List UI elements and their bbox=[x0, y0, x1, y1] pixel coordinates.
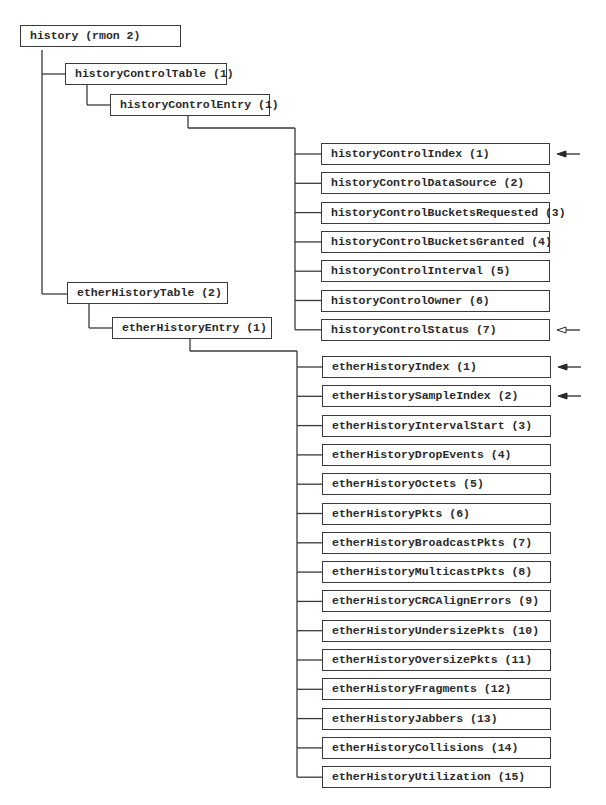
node-ether-history-table: etherHistoryTable (2) bbox=[67, 282, 228, 304]
ether-history-column-node: etherHistoryCRCAlignErrors (9) bbox=[322, 590, 551, 612]
ether-history-column-node: etherHistoryUtilization (15) bbox=[322, 766, 551, 788]
ether-history-column-node: etherHistoryUndersizePkts (10) bbox=[322, 620, 551, 642]
node-history-control-entry: historyControlEntry (1) bbox=[110, 94, 270, 116]
filled-arrow-icon bbox=[556, 149, 580, 159]
ether-history-column-node: etherHistoryDropEvents (4) bbox=[322, 444, 551, 466]
history-control-column-node: historyControlBucketsRequested (3) bbox=[321, 202, 550, 224]
history-control-column-node: historyControlBucketsGranted (4) bbox=[321, 231, 550, 253]
ether-history-column-node: etherHistoryCollisions (14) bbox=[322, 737, 551, 759]
history-control-column-node: historyControlIndex (1) bbox=[321, 143, 550, 165]
ether-history-column-node: etherHistorySampleIndex (2) bbox=[322, 385, 551, 407]
ether-history-column-node: etherHistoryBroadcastPkts (7) bbox=[322, 532, 551, 554]
history-control-column-node: historyControlInterval (5) bbox=[321, 260, 550, 282]
ether-history-column-node: etherHistoryIntervalStart (3) bbox=[322, 415, 551, 437]
hollow-arrow-icon bbox=[556, 325, 580, 335]
ether-history-column-node: etherHistoryOctets (5) bbox=[322, 473, 551, 495]
history-control-column-node: historyControlOwner (6) bbox=[321, 290, 550, 312]
history-control-column-node: historyControlDataSource (2) bbox=[321, 172, 550, 194]
ether-history-column-node: etherHistoryMulticastPkts (8) bbox=[322, 561, 551, 583]
ether-history-column-node: etherHistoryOversizePkts (11) bbox=[322, 649, 551, 671]
ether-history-column-node: etherHistoryIndex (1) bbox=[322, 356, 551, 378]
history-control-column-node: historyControlStatus (7) bbox=[321, 319, 550, 341]
node-history-control-table: historyControlTable (1) bbox=[65, 63, 227, 85]
node-history-root: history (rmon 2) bbox=[20, 25, 181, 47]
filled-arrow-icon bbox=[557, 391, 581, 401]
filled-arrow-icon bbox=[557, 362, 581, 372]
ether-history-column-node: etherHistoryFragments (12) bbox=[322, 678, 551, 700]
ether-history-column-node: etherHistoryJabbers (13) bbox=[322, 708, 551, 730]
node-ether-history-entry: etherHistoryEntry (1) bbox=[112, 317, 272, 339]
ether-history-column-node: etherHistoryPkts (6) bbox=[322, 503, 551, 525]
